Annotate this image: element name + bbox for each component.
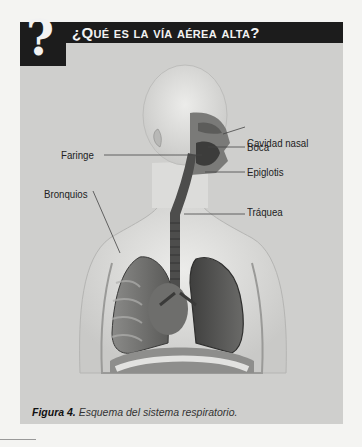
footnote-rule	[0, 439, 36, 440]
label-faringe: Faringe	[61, 149, 94, 161]
label-bronquios: Bronquios	[44, 188, 88, 200]
caption-prefix: Figura 4.	[32, 406, 76, 418]
figure-caption: Figura 4. Esquema del sistema respirator…	[32, 406, 237, 418]
page-title: ¿Qué es la vía aérea alta?	[72, 24, 260, 41]
label-epiglotis: Epiglotis	[247, 166, 284, 178]
respiratory-system-illustration	[20, 43, 343, 398]
label-boca: Boca	[247, 141, 269, 153]
caption-text: Esquema del sistema respiratorio.	[76, 406, 238, 418]
label-traquea: Tráquea	[247, 206, 283, 218]
